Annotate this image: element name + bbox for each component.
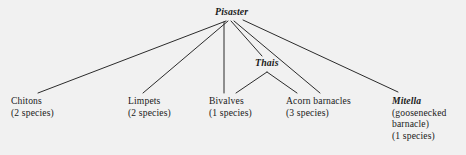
node-mitella-extra-line-1: (goosenecked [392, 107, 447, 119]
node-pisaster-label: Pisaster [215, 6, 248, 18]
edge-pisaster-to-limpets [143, 21, 228, 93]
edge-thais-to-acorn-barnacles [267, 72, 297, 93]
node-pisaster: Pisaster [215, 6, 248, 18]
node-chitons-name: Chitons [11, 95, 54, 107]
food-web-diagram: Pisaster Thais Chitons (2 species) Limpe… [0, 0, 466, 155]
edge-thais-to-bivalves [236, 72, 267, 93]
node-limpets: Limpets (2 species) [128, 95, 171, 118]
edge-pisaster-to-mitella [243, 20, 398, 92]
node-bivalves: Bivalves (1 species) [209, 95, 252, 118]
node-mitella-extra-line-2: barnacle) [392, 118, 447, 130]
node-chitons-count: (2 species) [11, 107, 54, 119]
node-limpets-count: (2 species) [128, 107, 171, 119]
node-thais: Thais [255, 57, 279, 69]
node-thais-label: Thais [255, 57, 279, 69]
node-acorn-barnacles-count: (3 species) [286, 107, 351, 119]
node-acorn-barnacles: Acorn barnacles (3 species) [286, 95, 351, 118]
node-bivalves-name: Bivalves [209, 95, 252, 107]
node-mitella-name: Mitella [392, 95, 447, 107]
node-acorn-barnacles-name: Acorn barnacles [286, 95, 351, 107]
node-mitella: Mitella (goosenecked barnacle) (1 specie… [392, 95, 447, 141]
node-mitella-count: (1 species) [392, 130, 447, 142]
node-bivalves-count: (1 species) [209, 107, 252, 119]
node-chitons: Chitons (2 species) [11, 95, 54, 118]
edge-pisaster-to-chitons [38, 21, 226, 93]
node-limpets-name: Limpets [128, 95, 171, 107]
